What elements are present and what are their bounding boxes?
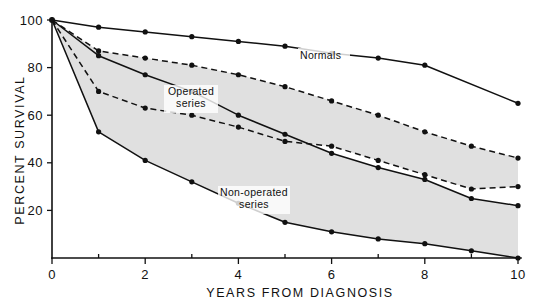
data-point [143,105,148,110]
y-axis-title: PERCENT SURVIVAL [13,75,27,224]
data-point [329,151,334,156]
data-point [236,113,241,118]
data-point [236,72,241,77]
data-point [282,44,287,49]
data-point [96,89,101,94]
x-tick-label-0: 0 [48,267,56,282]
data-point [469,196,474,201]
data-point [143,158,148,163]
data-point [282,139,287,144]
data-point [236,125,241,130]
data-point [376,55,381,60]
data-point [282,220,287,225]
y-tick-label-100: 100 [20,13,43,28]
data-point [96,53,101,58]
data-point [422,177,427,182]
x-axis-tick-labels: 0246810 [48,267,526,282]
x-tick-label-2: 2 [141,267,149,282]
operated-series-label-line1: Operated [168,85,214,97]
data-point [143,29,148,34]
data-point [236,39,241,44]
survival-chart-figure: 20406080100 0246810 PERCENT SURVIVAL YEA… [0,0,540,307]
x-tick-label-6: 6 [328,267,336,282]
data-point [376,113,381,118]
data-point [515,203,520,208]
normals-series-label: Normals [300,49,341,61]
data-point [96,129,101,134]
x-tick-label-4: 4 [235,267,243,282]
operated-series-label-line2: series [176,97,206,109]
data-point [376,165,381,170]
x-tick-label-10: 10 [510,267,525,282]
data-point-origin [49,17,55,23]
data-point [329,144,334,149]
data-point [143,72,148,77]
data-point [189,179,194,184]
data-point [189,113,194,118]
y-tick-label-40: 40 [28,155,43,170]
data-point [515,184,520,189]
x-axis-ticks [52,254,518,264]
data-point [96,25,101,30]
data-point [376,158,381,163]
data-point [422,63,427,68]
data-point [422,129,427,134]
data-point [189,34,194,39]
non-operated-series-label-line1: Non-operated [220,186,288,198]
data-point [329,98,334,103]
data-point [422,172,427,177]
data-point [282,132,287,137]
data-point [515,255,520,260]
y-tick-label-60: 60 [28,108,43,123]
data-point [422,241,427,246]
data-point [515,155,520,160]
x-axis-title: YEARS FROM DIAGNOSIS [206,286,394,300]
chart-canvas: 20406080100 0246810 PERCENT SURVIVAL YEA… [0,0,540,307]
data-point [376,236,381,241]
data-point [189,63,194,68]
data-point [96,48,101,53]
data-point [469,248,474,253]
y-tick-label-80: 80 [28,60,43,75]
x-tick-label-8: 8 [421,267,429,282]
data-point [515,101,520,106]
y-tick-label-20: 20 [28,203,43,218]
data-point [143,55,148,60]
data-point [329,229,334,234]
non-operated-series-label-line2: series [239,198,269,210]
data-point [469,144,474,149]
data-point [282,84,287,89]
data-point [469,186,474,191]
